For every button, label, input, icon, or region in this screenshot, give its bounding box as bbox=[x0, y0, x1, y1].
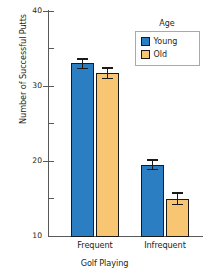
y-tick-label-20: 20 bbox=[18, 157, 42, 165]
y-tick-minor-35 bbox=[48, 48, 54, 49]
error-bar-frequent-old bbox=[102, 67, 113, 79]
y-tick-30 bbox=[43, 86, 54, 87]
y-tick-label-10: 10 bbox=[18, 232, 42, 240]
error-bar-cap-top bbox=[77, 58, 88, 60]
bar-frequent-young bbox=[71, 63, 94, 237]
y-tick-label-40: 40 bbox=[18, 7, 42, 15]
error-bar-frequent-young bbox=[77, 58, 88, 69]
error-bar-infrequent-old bbox=[172, 192, 183, 205]
error-bar-cap-bottom bbox=[172, 204, 183, 206]
legend-swatch-young-icon bbox=[141, 37, 150, 46]
y-tick-minor-15 bbox=[48, 198, 54, 199]
bar-infrequent-young bbox=[141, 165, 164, 237]
error-bar-infrequent-young bbox=[147, 159, 158, 170]
error-bar-cap-bottom bbox=[102, 78, 113, 80]
legend: Young Old bbox=[135, 31, 200, 66]
y-axis-title: Number of Successful Putts bbox=[16, 0, 30, 154]
x-axis-title: Golf Playing bbox=[0, 258, 209, 268]
bar-chart: Number of Successful Putts 40 30 20 10 bbox=[0, 0, 209, 275]
legend-item-old: Old bbox=[141, 48, 195, 61]
legend-label-young: Young bbox=[154, 37, 178, 46]
bar-frequent-old bbox=[96, 73, 119, 237]
legend-title: Age bbox=[128, 19, 206, 28]
y-tick-minor-25 bbox=[48, 123, 54, 124]
y-tick-20 bbox=[43, 161, 54, 162]
x-category-label-frequent: Frequent bbox=[55, 240, 135, 250]
error-bar-cap-top bbox=[172, 192, 183, 194]
y-tick-label-30: 30 bbox=[18, 82, 42, 90]
legend-label-old: Old bbox=[154, 50, 168, 59]
error-bar-cap-bottom bbox=[77, 68, 88, 70]
x-category-label-infrequent: Infrequent bbox=[125, 240, 205, 250]
error-bar-cap-top bbox=[147, 159, 158, 161]
error-bar-cap-top bbox=[102, 67, 113, 69]
legend-item-young: Young bbox=[141, 35, 195, 48]
legend-swatch-old-icon bbox=[141, 50, 150, 59]
error-bar-cap-bottom bbox=[147, 169, 158, 171]
y-tick-40 bbox=[43, 11, 54, 12]
